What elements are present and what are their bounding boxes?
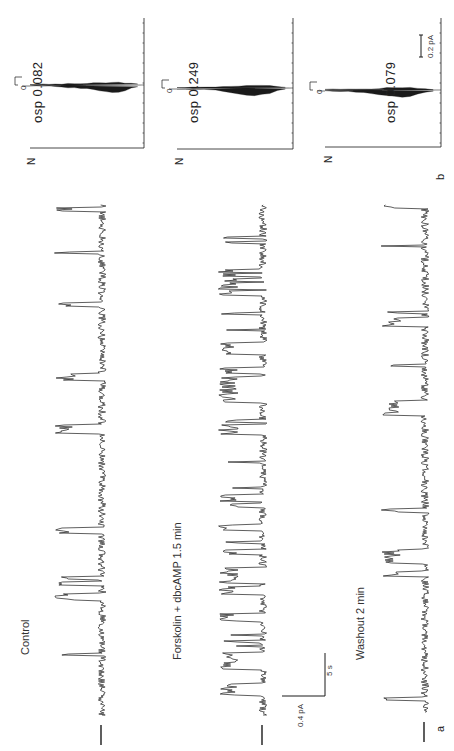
condition-label-forskolin: Forskolin + dbcAMP 1.5 min	[171, 522, 183, 660]
osp-label-forskolin: osp 0.249	[186, 61, 201, 123]
panel-label-b: b	[434, 174, 446, 180]
histogram-zero-2: 0	[165, 89, 174, 93]
scale-label-current: 0.4 pA	[296, 704, 305, 727]
histogram-axis-N-2: N	[174, 158, 185, 165]
histogram-panel	[15, 18, 441, 149]
histogram-zero-1: 0	[19, 86, 28, 90]
trace-panel	[54, 205, 429, 745]
scale-bars	[282, 653, 325, 696]
histogram-zero-3: 0	[315, 90, 324, 94]
scale-label-time: 5 s	[325, 665, 334, 676]
histogram-axis-N-1: N	[26, 158, 37, 165]
osp-label-washout: osp 0.079	[383, 61, 398, 123]
osp-label-control: osp 0.082	[30, 61, 45, 123]
panel-label-a: a	[434, 726, 446, 732]
condition-label-washout: Washout 2 min	[354, 587, 366, 660]
scale-label-histogram: 0.2 pA	[426, 35, 435, 58]
histogram-axis-N-3: N	[323, 156, 334, 163]
condition-label-control: Control	[19, 620, 31, 655]
